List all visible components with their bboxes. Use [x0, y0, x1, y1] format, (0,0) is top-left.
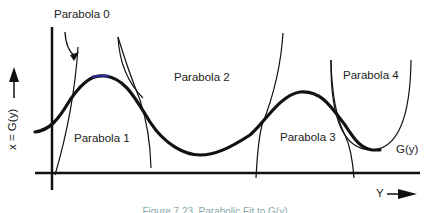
parabola-1-curve	[118, 37, 151, 168]
label-g-of-y: G(y)	[396, 143, 418, 155]
label-parabola-2: Parabola 2	[174, 71, 230, 83]
figure-caption: Figure 7.23. Parabolic Fit to G(y)	[0, 206, 430, 213]
label-parabola-4: Parabola 4	[343, 69, 399, 81]
g-of-y-highlight	[92, 76, 109, 77]
up-arrow-icon	[9, 67, 19, 98]
x-axis-label: Y	[376, 187, 384, 199]
label-parabola-0: Parabola 0	[54, 8, 110, 20]
label-parabola-1: Parabola 1	[74, 132, 130, 144]
parabola-fit-diagram	[0, 0, 430, 213]
y-axis-label: x = G(y)	[6, 109, 18, 150]
right-arrow-icon	[387, 189, 417, 199]
label-parabola-3: Parabola 3	[280, 131, 336, 143]
